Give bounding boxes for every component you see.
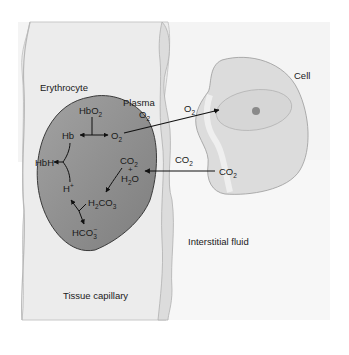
label-tissue-capillary: Tissue capillary — [63, 290, 128, 301]
gas-exchange-diagram: Erythrocyte Plasma Cell Interstitial flu… — [0, 0, 349, 355]
label-cell: Cell — [294, 70, 310, 81]
label-h2co3: H2CO3 — [88, 197, 117, 210]
label-interstitial-fluid: Interstitial fluid — [188, 236, 249, 247]
cell-nucleolus — [252, 107, 260, 115]
label-plasma: Plasma — [123, 97, 155, 108]
label-hb: Hb — [62, 130, 74, 141]
label-hco3: HCO3− — [72, 226, 98, 240]
label-hbh: HbH — [35, 157, 54, 168]
label-erythrocyte: Erythrocyte — [40, 82, 88, 93]
